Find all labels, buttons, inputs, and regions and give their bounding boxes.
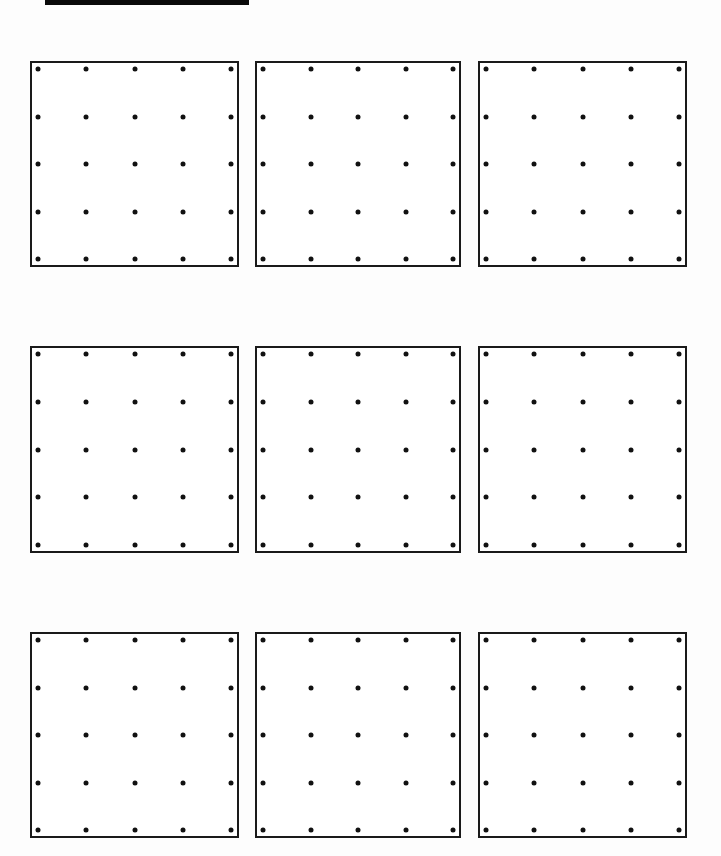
geoboard xyxy=(478,346,687,553)
peg-dot xyxy=(677,733,682,738)
peg-dot xyxy=(180,447,185,452)
peg-dot xyxy=(403,543,408,548)
peg-dot xyxy=(308,209,313,214)
peg-dot xyxy=(356,638,361,643)
peg-dot xyxy=(356,685,361,690)
peg-dot xyxy=(628,67,633,72)
peg-dot xyxy=(229,780,234,785)
peg-dot xyxy=(36,828,41,833)
peg-dot xyxy=(84,67,89,72)
peg-dot xyxy=(628,114,633,119)
peg-dot xyxy=(180,733,185,738)
peg-dot xyxy=(677,828,682,833)
peg-dot xyxy=(229,114,234,119)
peg-dot xyxy=(356,352,361,357)
peg-dot xyxy=(356,67,361,72)
peg-dot xyxy=(308,780,313,785)
peg-dot xyxy=(580,638,585,643)
peg-dot xyxy=(356,209,361,214)
peg-dot xyxy=(308,828,313,833)
peg-dot xyxy=(261,399,266,404)
peg-dot xyxy=(580,685,585,690)
peg-dot xyxy=(356,495,361,500)
peg-dot xyxy=(484,495,489,500)
peg-dot xyxy=(308,495,313,500)
peg-dot xyxy=(356,828,361,833)
peg-dot xyxy=(580,447,585,452)
peg-dot xyxy=(484,638,489,643)
peg-dot xyxy=(132,828,137,833)
peg-dot xyxy=(261,209,266,214)
peg-dot xyxy=(261,162,266,167)
peg-dot xyxy=(451,447,456,452)
peg-dot xyxy=(229,399,234,404)
peg-dot xyxy=(229,209,234,214)
peg-dot xyxy=(180,67,185,72)
peg-dot xyxy=(580,114,585,119)
peg-dot xyxy=(308,162,313,167)
geoboard xyxy=(255,346,461,553)
peg-dot xyxy=(229,352,234,357)
peg-dot xyxy=(484,447,489,452)
peg-dot xyxy=(36,352,41,357)
peg-dot xyxy=(36,114,41,119)
peg-dot xyxy=(84,638,89,643)
peg-dot xyxy=(403,638,408,643)
peg-dot xyxy=(677,780,682,785)
peg-dot xyxy=(628,685,633,690)
peg-dot xyxy=(84,399,89,404)
peg-dot xyxy=(356,733,361,738)
peg-dot xyxy=(229,257,234,262)
peg-dot xyxy=(261,352,266,357)
peg-dot xyxy=(180,638,185,643)
peg-dot xyxy=(532,67,537,72)
peg-dot xyxy=(403,209,408,214)
peg-dot xyxy=(580,828,585,833)
peg-dot xyxy=(451,114,456,119)
peg-dot xyxy=(132,67,137,72)
peg-dot xyxy=(261,447,266,452)
peg-dot xyxy=(36,67,41,72)
peg-dot xyxy=(180,114,185,119)
peg-dot xyxy=(36,162,41,167)
peg-dot xyxy=(308,685,313,690)
peg-dot xyxy=(532,114,537,119)
peg-dot xyxy=(451,543,456,548)
peg-dot xyxy=(532,257,537,262)
peg-dot xyxy=(261,828,266,833)
peg-dot xyxy=(484,209,489,214)
peg-dot xyxy=(677,543,682,548)
peg-dot xyxy=(356,780,361,785)
peg-dot xyxy=(580,543,585,548)
peg-dot xyxy=(628,780,633,785)
peg-dot xyxy=(261,257,266,262)
peg-dot xyxy=(532,495,537,500)
peg-dot xyxy=(132,780,137,785)
peg-dot xyxy=(580,780,585,785)
peg-dot xyxy=(532,352,537,357)
peg-dot xyxy=(36,685,41,690)
peg-dot xyxy=(308,67,313,72)
peg-dot xyxy=(36,543,41,548)
peg-dot xyxy=(628,447,633,452)
peg-dot xyxy=(261,638,266,643)
peg-dot xyxy=(484,780,489,785)
peg-dot xyxy=(132,114,137,119)
peg-dot xyxy=(580,733,585,738)
peg-dot xyxy=(132,733,137,738)
peg-dot xyxy=(580,352,585,357)
peg-dot xyxy=(261,780,266,785)
peg-dot xyxy=(677,114,682,119)
peg-dot xyxy=(229,447,234,452)
peg-dot xyxy=(403,780,408,785)
peg-dot xyxy=(308,399,313,404)
peg-dot xyxy=(356,162,361,167)
peg-dot xyxy=(132,685,137,690)
peg-dot xyxy=(532,447,537,452)
peg-dot xyxy=(484,162,489,167)
peg-dot xyxy=(677,399,682,404)
peg-dot xyxy=(451,828,456,833)
peg-dot xyxy=(229,543,234,548)
peg-dot xyxy=(261,543,266,548)
peg-dot xyxy=(308,638,313,643)
